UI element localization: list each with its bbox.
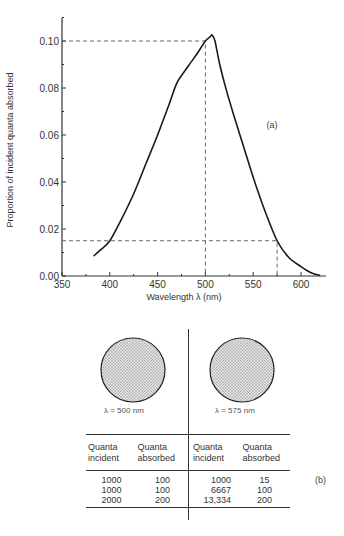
header-incident-575: Quanta incident bbox=[185, 442, 241, 464]
table-header: Quanta incident Quanta absorbed Quanta i… bbox=[86, 435, 290, 471]
y-tick-label: 0.08 bbox=[40, 83, 60, 94]
panel-label-a: (a) bbox=[267, 120, 278, 130]
y-tick-label: 0.06 bbox=[40, 130, 60, 141]
wavelength-label-500: λ = 500 nm bbox=[104, 406, 144, 415]
table-row: 1000 100 1000 15 bbox=[86, 475, 290, 485]
header-absorbed-575: Quanta absorbed bbox=[241, 442, 291, 464]
y-axis-title: Proportion of incident quanta absorbed bbox=[5, 72, 15, 227]
panel-label-b: (b) bbox=[315, 475, 326, 485]
x-tick-label: 600 bbox=[293, 279, 310, 290]
x-tick-label: 450 bbox=[149, 279, 166, 290]
axis-ticks: 3504004505005506000.000.020.040.060.080.… bbox=[40, 18, 310, 291]
absorption-chart: 3504004505005506000.000.020.040.060.080.… bbox=[0, 0, 344, 430]
table-row: 2000 200 13,334 200 bbox=[86, 495, 290, 505]
x-tick-label: 550 bbox=[245, 279, 262, 290]
absorption-curve bbox=[94, 35, 321, 276]
wavelength-label-575: λ = 575 nm bbox=[215, 406, 255, 415]
dashed-reference-lines bbox=[62, 41, 277, 276]
y-tick-label: 0.00 bbox=[40, 271, 60, 282]
retina-sample-circle-500 bbox=[101, 338, 165, 402]
header-absorbed-500: Quanta absorbed bbox=[136, 442, 186, 464]
y-tick-label: 0.02 bbox=[40, 224, 60, 235]
x-axis-title: Wavelength λ (nm) bbox=[146, 292, 221, 302]
table-row: 1000 100 6667 100 bbox=[86, 485, 290, 495]
x-tick-label: 400 bbox=[101, 279, 118, 290]
y-tick-label: 0.04 bbox=[40, 177, 60, 188]
axes bbox=[62, 18, 326, 276]
quanta-table: Quanta incident Quanta absorbed Quanta i… bbox=[86, 434, 290, 508]
header-incident-500: Quanta incident bbox=[86, 442, 136, 464]
table-body: 1000 100 1000 15 1000 100 6667 100 2000 … bbox=[86, 471, 290, 507]
retina-sample-circle-575 bbox=[210, 338, 274, 402]
y-tick-label: 0.10 bbox=[40, 36, 60, 47]
x-tick-label: 500 bbox=[197, 279, 214, 290]
